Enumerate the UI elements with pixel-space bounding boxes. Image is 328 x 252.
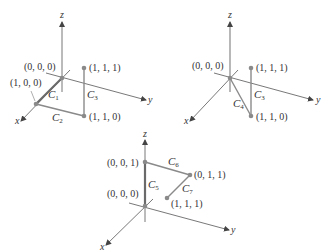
- point-1-1-1: [82, 66, 87, 71]
- point-origin: [143, 204, 148, 209]
- path-diagrams: z y x (0, 0, 0) (1, 0, 0) (1, 1, 1) (1, …: [0, 0, 328, 252]
- point-1-1-0: [249, 114, 254, 119]
- point-label: (1, 1, 1): [89, 62, 121, 74]
- point-label: (0, 0, 0): [192, 60, 224, 72]
- curve-label-c5: C5: [148, 178, 159, 192]
- curve-c2: [36, 104, 84, 116]
- point-label: (0, 1, 1): [194, 169, 226, 181]
- x-axis-label: x: [99, 241, 105, 252]
- z-axis-label: z: [227, 9, 232, 20]
- point-label: (1, 1, 1): [171, 198, 203, 210]
- z-axis-label: z: [142, 128, 147, 139]
- curve-label-c4: C4: [233, 97, 244, 111]
- point-label: (1, 1, 0): [89, 111, 121, 123]
- point-1-0-0: [34, 102, 39, 107]
- point-origin: [60, 76, 65, 81]
- x-axis-label: x: [183, 115, 189, 126]
- point-origin: [228, 76, 233, 81]
- curve-label-c6: C6: [168, 155, 179, 169]
- leader-line: [31, 91, 35, 101]
- curve-label-c3: C3: [87, 88, 98, 102]
- y-axis-label: y: [147, 94, 153, 105]
- diagram-1: z y x (0, 0, 0) (1, 0, 0) (1, 1, 1) (1, …: [10, 9, 153, 126]
- diagram-2: z y x (0, 0, 0) (1, 1, 1) (1, 1, 0) C4 C…: [183, 9, 321, 126]
- curve-label-c7: C7: [182, 182, 193, 196]
- curve-label-c1: C1: [48, 88, 59, 102]
- point-0-1-1: [188, 173, 193, 178]
- point-label: (1, 1, 1): [256, 62, 288, 74]
- curve-label-c3: C3: [254, 88, 265, 102]
- point-1-1-0: [82, 114, 87, 119]
- point-1-1-1: [165, 196, 170, 201]
- y-axis-label: y: [315, 94, 321, 105]
- x-axis-label: x: [14, 115, 20, 126]
- diagram-3: z y x (0, 0, 1) (0, 1, 1) (0, 0, 0) (1, …: [99, 128, 236, 252]
- curve-label-c2: C2: [52, 111, 63, 125]
- point-label: (0, 0, 1): [107, 157, 139, 169]
- point-label: (1, 0, 0): [10, 77, 42, 89]
- point-0-0-1: [143, 160, 148, 165]
- point-label: (1, 1, 0): [256, 111, 288, 123]
- point-label: (0, 0, 0): [107, 188, 139, 200]
- y-axis-label: y: [230, 224, 236, 235]
- z-axis-label: z: [59, 9, 64, 20]
- point-1-1-1: [249, 66, 254, 71]
- point-label: (0, 0, 0): [24, 61, 56, 73]
